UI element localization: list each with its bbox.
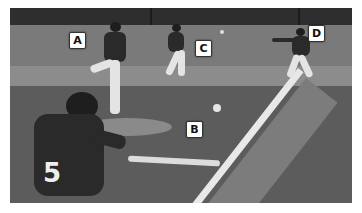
label-a: A: [69, 32, 86, 49]
wall-seam: [298, 8, 300, 25]
thrown-ball: [220, 30, 224, 34]
jersey-number: 5: [43, 158, 61, 188]
wall-seam: [150, 8, 152, 25]
baseball-photo: 5: [10, 8, 352, 203]
baseball: [213, 104, 221, 112]
label-d: D: [308, 25, 325, 42]
outfield-wall: [10, 8, 352, 25]
label-b: B: [186, 121, 203, 138]
batter: [20, 92, 130, 203]
label-c: C: [195, 40, 212, 57]
fielder-c: [158, 24, 198, 84]
